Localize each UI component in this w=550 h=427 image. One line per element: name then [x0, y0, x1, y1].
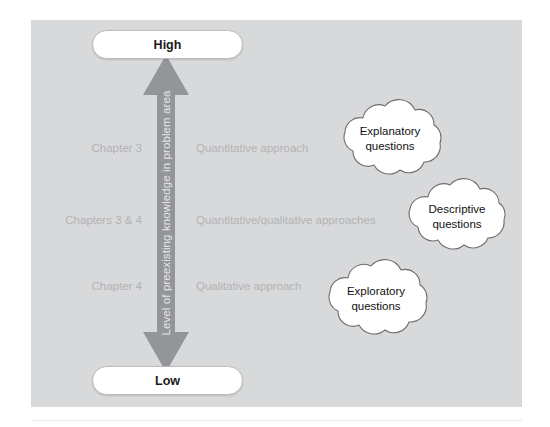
- tier-1-chapter: Chapter 3: [0, 141, 142, 155]
- diagram-figure: Level of preexisting knowledge in proble…: [0, 0, 550, 427]
- cloud-explanatory-questions: Explanatory questions: [333, 96, 447, 182]
- tier-1-approach: Quantitative approach: [196, 141, 309, 155]
- tier-2-approach: Quantitative/qualitative approaches: [196, 213, 376, 227]
- tier-3-chapter: Chapter 4: [0, 279, 142, 293]
- footer-rule: [31, 420, 522, 421]
- tier-2-chapter: Chapters 3 & 4: [0, 213, 142, 227]
- axis-high-pill: High: [92, 30, 243, 59]
- axis-low-pill: Low: [92, 366, 243, 395]
- axis-high-label: High: [154, 38, 182, 52]
- tier-3-approach: Qualitative approach: [196, 279, 301, 293]
- cloud-descriptive-questions: Descriptive questions: [400, 176, 514, 258]
- double-headed-arrow: [142, 55, 190, 372]
- axis-low-label: Low: [155, 374, 180, 388]
- cloud-exploratory-questions: Exploratory questions: [318, 256, 434, 342]
